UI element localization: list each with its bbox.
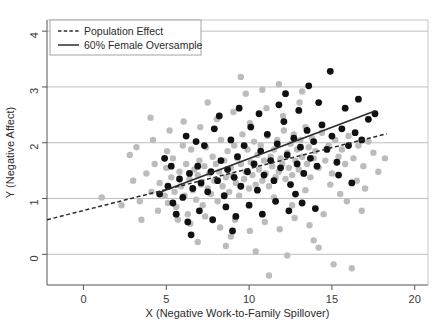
data-point (241, 142, 248, 149)
data-point (227, 137, 234, 144)
data-point (266, 272, 272, 278)
data-point (241, 176, 247, 182)
data-point (171, 189, 177, 195)
data-point (130, 177, 136, 183)
data-point (295, 107, 302, 114)
data-point (223, 174, 229, 180)
data-point (196, 207, 203, 214)
data-point (348, 180, 355, 187)
data-point (137, 198, 143, 204)
data-point (256, 166, 262, 172)
data-point (150, 137, 156, 143)
data-point (352, 129, 359, 136)
data-point (302, 187, 308, 193)
data-point (231, 174, 238, 181)
data-point (202, 213, 208, 219)
data-point (355, 142, 361, 148)
data-point (306, 144, 312, 150)
data-point (188, 146, 194, 152)
data-point (345, 133, 351, 139)
data-point (247, 124, 254, 131)
data-point (231, 142, 237, 148)
data-point (173, 211, 180, 218)
data-point (349, 265, 355, 271)
data-point (253, 248, 259, 254)
data-point (133, 144, 139, 150)
data-point (204, 99, 210, 105)
xtick-label: 15 (326, 293, 338, 305)
data-point (299, 200, 306, 207)
data-point (342, 105, 349, 112)
legend-box: Population Effect60% Female Oversample (50, 20, 203, 55)
data-point (350, 155, 356, 161)
data-point (289, 172, 295, 178)
data-point (170, 200, 177, 207)
data-point (236, 105, 243, 112)
data-point (98, 194, 104, 200)
data-point (183, 161, 189, 167)
data-point (256, 110, 263, 117)
data-point (259, 211, 266, 218)
data-point (280, 113, 286, 119)
legend-label: Population Effect (84, 25, 163, 37)
data-point (247, 228, 253, 234)
data-point (370, 150, 376, 156)
data-point (224, 148, 230, 154)
data-point (277, 164, 284, 171)
data-point (147, 114, 153, 120)
xtick-label: 10 (243, 293, 255, 305)
data-point (315, 99, 322, 106)
scatter-plot-figure: 0123405101520 X (Negative Work-to-Family… (0, 0, 436, 328)
data-point (236, 193, 242, 199)
data-point (280, 118, 287, 125)
data-point (200, 202, 206, 208)
data-point (304, 161, 310, 167)
data-point (201, 142, 208, 149)
data-point (329, 170, 335, 176)
data-point (322, 157, 328, 163)
data-point (151, 161, 157, 167)
data-point (223, 203, 230, 210)
data-point (164, 148, 170, 154)
chart-canvas: 0123405101520 X (Negative Work-to-Family… (0, 0, 436, 328)
data-point (277, 226, 283, 232)
data-point (339, 146, 345, 152)
data-point (333, 159, 340, 166)
data-point (179, 194, 186, 201)
data-point (194, 163, 201, 170)
data-point (195, 239, 201, 245)
data-point (300, 170, 307, 177)
data-point (307, 155, 314, 162)
data-point (297, 144, 304, 151)
data-point (337, 191, 343, 197)
data-point (143, 170, 149, 176)
data-point (284, 152, 291, 159)
data-point (185, 211, 191, 217)
data-point (359, 208, 365, 214)
data-point (216, 113, 223, 120)
data-point (304, 127, 311, 134)
data-point (254, 187, 261, 194)
data-point (338, 125, 345, 132)
data-point (166, 127, 172, 133)
data-point (375, 169, 381, 175)
data-point (209, 153, 215, 159)
xtick-label: 5 (163, 293, 169, 305)
data-point (186, 170, 193, 177)
data-point (299, 88, 305, 94)
data-point (296, 99, 302, 105)
data-point (314, 163, 321, 170)
data-point (214, 198, 220, 204)
data-point (271, 177, 278, 184)
data-point (294, 161, 301, 168)
xtick-label: 0 (80, 293, 86, 305)
ytick-label: 2 (28, 144, 40, 150)
data-point (289, 202, 295, 208)
data-point (311, 237, 317, 243)
data-point (262, 219, 268, 225)
data-point (238, 74, 244, 80)
data-point (342, 161, 348, 167)
x-axis-title: X (Negative Work-to-Family Spillover) (146, 307, 330, 319)
data-point (218, 137, 224, 143)
data-point (259, 87, 265, 93)
